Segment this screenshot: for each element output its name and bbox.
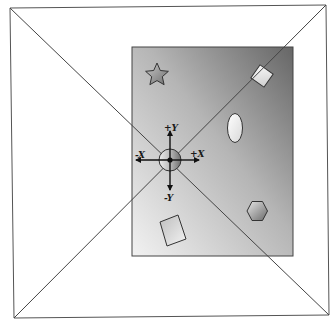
ellipse-shape [228,114,243,143]
origin-dot [167,157,172,162]
label-pos-y: +Y [164,123,180,133]
label-pos-x: +X [190,149,206,159]
label-neg-y: -Y [164,193,175,203]
perspective-diagram: +Y -Y +X -X [0,0,336,325]
hexagon-shape [247,202,268,221]
label-neg-x: -X [135,150,146,160]
